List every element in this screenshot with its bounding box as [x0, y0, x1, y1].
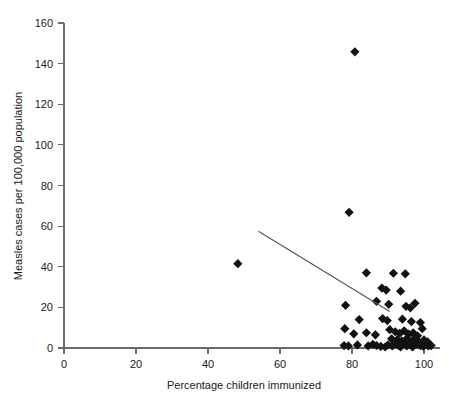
data-point-marker	[362, 328, 371, 337]
y-tick-label: 40	[41, 261, 53, 273]
y-tick-label: 160	[35, 17, 53, 29]
data-point-marker	[398, 315, 407, 324]
y-tick-label: 0	[47, 342, 53, 354]
data-points	[233, 47, 436, 351]
scatter-chart: 020406080100120140160 020406080100 Measl…	[0, 0, 449, 411]
data-point-marker	[396, 287, 405, 296]
y-axis-title: Measles cases per 100,000 population	[12, 92, 24, 280]
data-point-marker	[407, 317, 416, 326]
data-point-marker	[362, 268, 371, 277]
data-point-marker	[349, 329, 358, 338]
y-axis-ticks: 020406080100120140160	[35, 17, 64, 354]
data-point-marker	[371, 330, 380, 339]
data-point-marker	[340, 324, 349, 333]
y-tick-label: 60	[41, 220, 53, 232]
x-tick-label: 40	[202, 358, 214, 370]
x-axis-ticks: 020406080100	[61, 348, 433, 370]
data-point-marker	[345, 208, 354, 217]
x-tick-label: 60	[274, 358, 286, 370]
x-tick-label: 20	[130, 358, 142, 370]
y-tick-label: 20	[41, 301, 53, 313]
y-tick-label: 100	[35, 139, 53, 151]
data-point-marker	[384, 300, 393, 309]
trend-line	[258, 231, 389, 311]
x-tick-label: 0	[61, 358, 67, 370]
data-point-marker	[401, 269, 410, 278]
x-tick-label: 100	[415, 358, 433, 370]
data-point-marker	[355, 315, 364, 324]
data-point-marker	[350, 47, 359, 56]
y-tick-label: 140	[35, 58, 53, 70]
data-point-marker	[341, 301, 350, 310]
data-point-marker	[233, 259, 242, 268]
y-tick-label: 80	[41, 180, 53, 192]
y-tick-label: 120	[35, 98, 53, 110]
x-axis-title: Percentage children immunized	[167, 379, 321, 391]
plot-canvas: 020406080100120140160 020406080100 Measl…	[0, 0, 449, 411]
data-point-marker	[389, 269, 398, 278]
x-tick-label: 80	[346, 358, 358, 370]
